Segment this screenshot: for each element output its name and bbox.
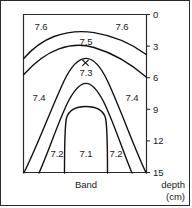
x-axis-label-band: Band (75, 179, 97, 190)
contour-label-right-7-2: 7.2 (109, 148, 122, 159)
depth-tick-12: 12 (153, 135, 164, 146)
contour-path-7-2 (39, 83, 132, 173)
depth-tick-3: 3 (153, 41, 158, 52)
contour-label-right-7-4: 7.4 (125, 92, 138, 103)
contour-label-top-left: 7.6 (34, 21, 47, 32)
contour-path-7-1 (65, 107, 108, 174)
contour-plot: 7.6 7.6 7.5 7.3 7.4 7.4 7.2 7.1 7.2 0 3 … (1, 1, 191, 207)
depth-tick-6: 6 (153, 72, 158, 83)
y-axis-label-depth: depth (161, 179, 185, 190)
contour-figure: 7.6 7.6 7.5 7.3 7.4 7.4 7.2 7.1 7.2 0 3 … (0, 0, 190, 206)
contour-label-left-7-4: 7.4 (32, 92, 45, 103)
depth-tick-0: 0 (153, 9, 158, 20)
depth-tick-15: 15 (153, 167, 164, 178)
contour-label-top-right: 7.6 (115, 21, 128, 32)
contour-label-7-5: 7.5 (79, 36, 92, 47)
contour-label-7-3: 7.3 (79, 67, 92, 78)
contour-label-center-7-1: 7.1 (79, 148, 92, 159)
depth-tick-9: 9 (153, 104, 158, 115)
contour-label-left-7-2: 7.2 (50, 148, 63, 159)
y-axis-label-unit: (cm) (166, 191, 185, 202)
peak-marker-x-icon (83, 60, 89, 66)
